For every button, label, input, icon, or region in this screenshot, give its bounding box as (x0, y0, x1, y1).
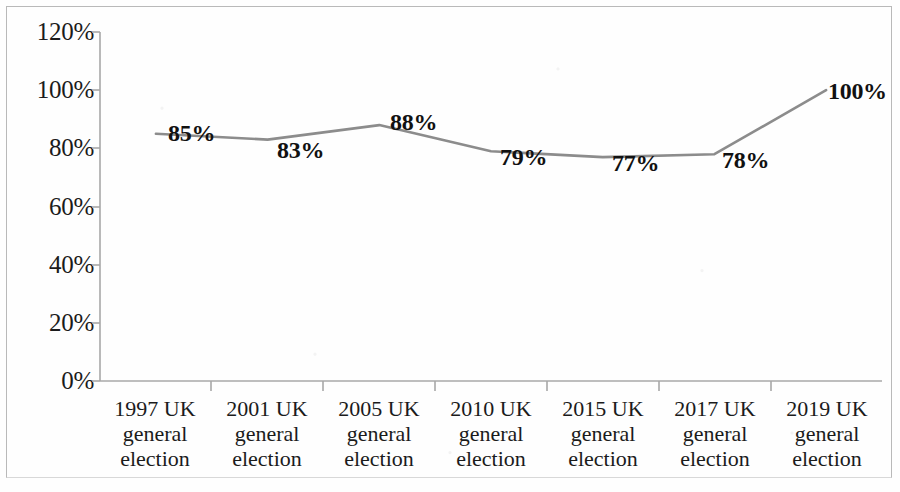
x-axis-category-line-1: 2015 UK (547, 396, 659, 421)
x-axis-category-label-2017: 2017 UK general election (659, 396, 771, 471)
data-label-2015: 77% (612, 150, 659, 177)
x-axis-category-line-2: general (211, 421, 323, 446)
x-axis-category-line-3: election (435, 446, 547, 471)
x-axis-category-label-2019: 2019 UK general election (771, 396, 883, 471)
x-axis-category-line-2: general (771, 421, 883, 446)
x-axis-category-label-2001: 2001 UK general election (211, 396, 323, 471)
x-axis-category-line-2: general (435, 421, 547, 446)
plot-area: 120% 100% 80% 60% 40% 20% 0% (0, 0, 900, 492)
x-axis-category-line-1: 2019 UK (771, 396, 883, 421)
x-axis-category-label-2010: 2010 UK general election (435, 396, 547, 471)
x-axis-category-label-1997: 1997 UK general election (99, 396, 211, 471)
data-label-1997: 85% (168, 120, 215, 147)
x-axis-category-line-3: election (211, 446, 323, 471)
x-axis-category-line-3: election (659, 446, 771, 471)
x-axis-category-line-1: 2001 UK (211, 396, 323, 421)
x-axis-category-line-1: 2017 UK (659, 396, 771, 421)
x-axis-category-line-3: election (323, 446, 435, 471)
x-axis-category-line-1: 2005 UK (323, 396, 435, 421)
x-axis-category-line-1: 1997 UK (99, 396, 211, 421)
data-label-2019: 100% (828, 78, 887, 105)
x-axis-category-line-3: election (771, 446, 883, 471)
data-label-2010: 79% (500, 144, 547, 171)
x-axis-category-line-3: election (99, 446, 211, 471)
data-label-2017: 78% (722, 147, 769, 174)
data-label-2005: 88% (390, 109, 437, 136)
x-axis-category-line-1: 2010 UK (435, 396, 547, 421)
x-axis-category-label-2015: 2015 UK general election (547, 396, 659, 471)
x-axis-category-line-2: general (323, 421, 435, 446)
x-axis-category-line-2: general (659, 421, 771, 446)
x-axis-category-label-2005: 2005 UK general election (323, 396, 435, 471)
data-label-2001: 83% (277, 137, 324, 164)
x-axis-category-line-2: general (547, 421, 659, 446)
x-axis-category-line-3: election (547, 446, 659, 471)
x-axis-category-line-2: general (99, 421, 211, 446)
chart-container: 120% 100% 80% 60% 40% 20% 0% (0, 0, 900, 492)
